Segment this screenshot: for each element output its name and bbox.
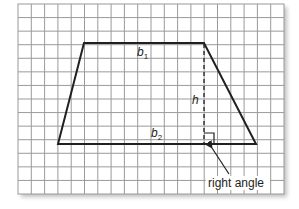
grid-lines (18, 4, 284, 194)
callout-label-right-angle: right angle (208, 176, 264, 190)
trapezoid-diagram: b1 h b2 right angle (0, 0, 299, 209)
label-h: h (192, 93, 199, 107)
